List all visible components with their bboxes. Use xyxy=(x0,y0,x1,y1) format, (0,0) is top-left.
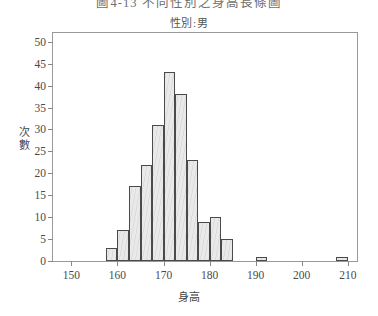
y-tick-mark xyxy=(48,64,53,65)
x-tick-mark xyxy=(164,261,165,266)
x-tick-label: 180 xyxy=(201,269,218,281)
histogram-bar xyxy=(187,160,199,261)
plot-area xyxy=(53,33,357,261)
histogram-bar xyxy=(198,222,210,261)
y-axis-label: 次數 xyxy=(16,126,32,152)
y-axis-label-char: 次 xyxy=(16,126,32,139)
histogram-bar xyxy=(175,94,187,261)
x-tick-label: 160 xyxy=(109,269,126,281)
histogram-bar xyxy=(221,239,233,261)
x-tick-label: 170 xyxy=(155,269,172,281)
y-tick-mark xyxy=(48,86,53,87)
x-tick-label: 190 xyxy=(247,269,264,281)
x-tick-mark xyxy=(348,261,349,266)
x-tick-mark xyxy=(117,261,118,266)
y-axis-label-char: 數 xyxy=(16,139,32,152)
x-tick-mark xyxy=(302,261,303,266)
x-tick-mark xyxy=(256,261,257,266)
y-tick-mark xyxy=(48,173,53,174)
histogram-bar xyxy=(106,248,118,261)
y-tick-mark xyxy=(48,217,53,218)
y-tick-mark xyxy=(48,195,53,196)
y-tick-mark xyxy=(48,108,53,109)
histogram-bar xyxy=(336,257,348,261)
y-tick-mark xyxy=(48,42,53,43)
histogram-bar xyxy=(141,165,153,261)
x-tick-mark xyxy=(71,261,72,266)
histogram-figure: 圖4-13 不同性別之身高長條圖 性別:男 次數 051015202530354… xyxy=(0,0,378,316)
x-tick-label: 210 xyxy=(339,269,356,281)
figure-subtitle: 性別:男 xyxy=(0,14,378,30)
histogram-bar xyxy=(256,257,268,261)
x-tick-label: 200 xyxy=(293,269,310,281)
x-tick-label: 150 xyxy=(63,269,80,281)
y-tick-mark xyxy=(48,151,53,152)
histogram-bar xyxy=(152,125,164,261)
y-tick-mark xyxy=(48,129,53,130)
histogram-bar xyxy=(164,72,176,261)
figure-main-title: 圖4-13 不同性別之身高長條圖 xyxy=(0,0,378,11)
y-tick-mark xyxy=(48,239,53,240)
x-axis-label: 身高 xyxy=(0,288,378,304)
histogram-bar xyxy=(129,186,141,261)
histogram-bar xyxy=(210,217,222,261)
histogram-bar xyxy=(117,230,129,261)
plot-frame: 0510152025303540455015016017018019020021… xyxy=(52,32,358,262)
y-tick-mark xyxy=(48,261,53,262)
x-tick-mark xyxy=(210,261,211,266)
